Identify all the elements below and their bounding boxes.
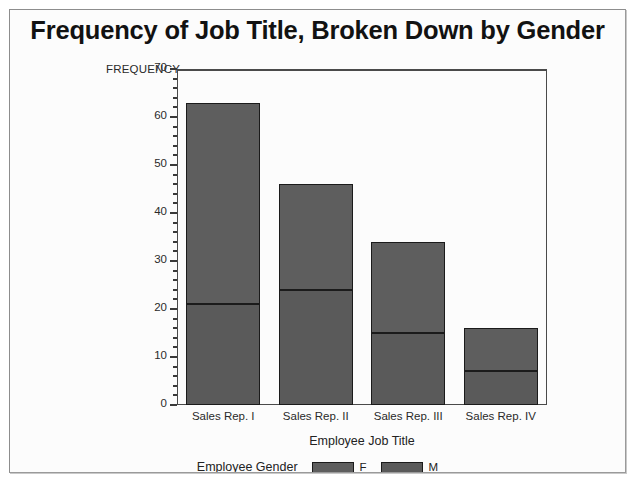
bar-segment-f[interactable] [371,242,445,333]
chart-card: Frequency of Job Title, Broken Down by G… [9,9,626,473]
legend-swatch [312,462,354,473]
bar-segment-m[interactable] [186,304,260,405]
legend-entry[interactable]: F [312,461,367,473]
y-axis-tick-label: 70 [154,61,167,73]
bars-layer [177,69,547,405]
tick-mark [170,260,177,262]
tick-mark [170,68,177,70]
x-axis-tick-label: Sales Rep. IV [455,410,548,422]
legend-label: F [360,461,367,473]
y-axis: 010203040506070 [10,69,177,405]
x-axis: Sales Rep. ISales Rep. IISales Rep. IIIS… [177,410,547,426]
x-axis-tick-label: Sales Rep. III [362,410,455,422]
legend-entry[interactable]: M [381,461,439,473]
y-axis-tick-label: 30 [154,253,167,265]
bar-segment-f[interactable] [279,184,353,290]
y-axis-tick-label: 40 [154,205,167,217]
legend-title: Employee Gender [197,460,298,473]
x-axis-title: Employee Job Title [177,434,547,448]
y-axis-tick-label: 10 [154,349,167,361]
tick-mark [170,308,177,310]
bar-group[interactable] [186,103,260,405]
bar-segment-f[interactable] [186,103,260,305]
bar-segment-f[interactable] [464,328,538,371]
y-axis-tick-label: 50 [154,157,167,169]
tick-mark [170,212,177,214]
bar-group[interactable] [464,328,538,405]
bar-segment-m[interactable] [464,371,538,405]
tick-mark [170,164,177,166]
x-axis-tick-label: Sales Rep. II [270,410,363,422]
bar-group[interactable] [279,184,353,405]
chart-title: Frequency of Job Title, Broken Down by G… [10,16,625,45]
y-axis-tick-label: 20 [154,301,167,313]
y-axis-tick-label: 0 [161,397,167,409]
chart-legend: Employee Gender FM [10,460,625,473]
legend-label: M [429,461,439,473]
y-axis-tick-label: 60 [154,109,167,121]
bar-segment-m[interactable] [279,290,353,405]
bar-segment-m[interactable] [371,333,445,405]
bar-group[interactable] [371,242,445,405]
tick-mark [170,356,177,358]
legend-swatch [381,462,423,473]
x-axis-tick-label: Sales Rep. I [177,410,270,422]
tick-mark [170,404,177,406]
tick-mark [170,116,177,118]
